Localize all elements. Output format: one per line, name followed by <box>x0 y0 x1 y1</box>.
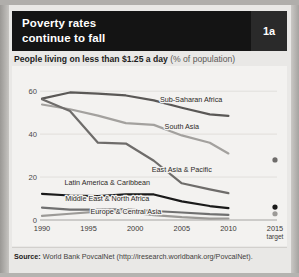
source-line: Source: World Bank PovcalNet (http://ire… <box>14 252 284 261</box>
y-axis-tick-label: 20 <box>29 173 37 182</box>
target-marker-dot <box>272 157 277 162</box>
source-text: World Bank PovcalNet (http://iresearch.w… <box>43 252 253 261</box>
x-axis-tick-label: 2015 <box>267 224 283 233</box>
page-right-edge <box>291 0 299 277</box>
page-top-edge <box>0 0 299 5</box>
series-label: South Asia <box>165 122 199 131</box>
screenshot-page: Poverty rates continue to fall 1a People… <box>0 0 299 277</box>
target-marker-dot <box>272 205 277 210</box>
figure-title: Poverty rates continue to fall <box>22 16 105 46</box>
page-bottom-edge <box>0 273 299 277</box>
chart-panel: 0204060199019952000200520102015targetSub… <box>12 66 287 246</box>
source-divider <box>12 247 287 248</box>
page-left-edge <box>0 0 9 277</box>
series-label: Sub-Saharan Africa <box>160 95 222 104</box>
x-axis-tick-label: 1990 <box>34 224 50 233</box>
series-label: East Asia & Pacific <box>152 165 212 174</box>
series-label: Middle East & North Africa <box>65 194 149 203</box>
subtitle-note-text: (% of population) <box>170 54 235 64</box>
figure-subtitle: People living on less than $1.25 a day (… <box>14 54 282 64</box>
x-axis-tick-label: 2010 <box>220 224 236 233</box>
x-axis-tick-sublabel: target <box>267 233 284 241</box>
series-label: Latin America & Caribbean <box>64 178 150 187</box>
series-label: Europe & Central Asia <box>91 207 162 216</box>
target-marker-dot <box>272 211 277 216</box>
x-axis-tick-label: 2005 <box>174 224 190 233</box>
figure-number-badge: 1a <box>251 11 287 51</box>
x-axis-tick-label: 1995 <box>80 224 96 233</box>
line-chart: 0204060199019952000200520102015targetSub… <box>12 66 287 246</box>
y-axis-tick-label: 60 <box>29 87 37 96</box>
x-axis-tick-label: 2000 <box>127 224 143 233</box>
subtitle-main-text: People living on less than $1.25 a day <box>14 54 168 64</box>
y-axis-tick-label: 40 <box>29 130 37 139</box>
figure-header: Poverty rates continue to fall 1a <box>12 11 287 51</box>
figure-number-label: 1a <box>263 25 275 37</box>
source-label: Source: <box>14 252 41 261</box>
